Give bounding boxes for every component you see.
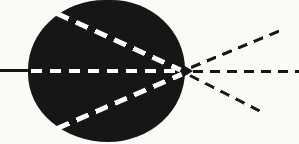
internal-axial-ray — [31, 69, 181, 73]
emergent-axial-ray — [193, 70, 299, 73]
emergent-lower-ray — [189, 74, 265, 115]
emergent-upper-ray — [190, 29, 280, 69]
incident-ray — [0, 69, 33, 72]
ray-diagram — [0, 0, 299, 144]
